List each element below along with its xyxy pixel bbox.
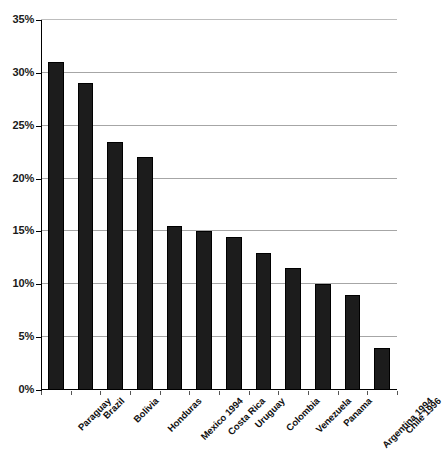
x-tick <box>71 391 72 395</box>
x-tick <box>219 391 220 395</box>
x-tick <box>367 391 368 395</box>
x-tick <box>130 391 131 395</box>
y-axis-tick-label: 15% <box>0 225 34 236</box>
y-axis-tick-label: 5% <box>0 331 34 342</box>
y-axis-tick-label: 10% <box>0 278 34 289</box>
x-tick <box>249 391 250 395</box>
x-axis-labels: ParaguayBrazilBoliviaHondurasMexico 1994… <box>0 396 408 459</box>
x-tick <box>338 391 339 395</box>
y-axis-tick-label: 35% <box>0 14 34 25</box>
x-tick <box>189 391 190 395</box>
x-tick <box>397 391 398 395</box>
x-tick <box>41 391 42 395</box>
y-axis-tick-label: 30% <box>0 67 34 78</box>
x-axis-category-label: Honduras <box>166 396 204 434</box>
x-tick <box>100 391 101 395</box>
x-tick <box>160 391 161 395</box>
y-axis-tick-label: 0% <box>0 384 34 395</box>
y-axis-tick-label: 20% <box>0 173 34 184</box>
x-axis-category-label: Bolivia <box>132 396 161 425</box>
y-axis-tick-label: 25% <box>0 120 34 131</box>
x-tick <box>308 391 309 395</box>
